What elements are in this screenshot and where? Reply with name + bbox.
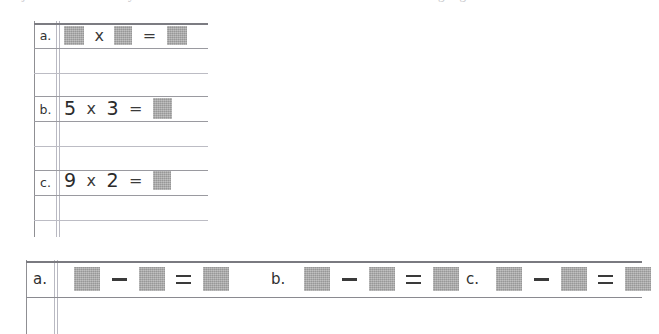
operand-c1: 9 [64,171,76,190]
operand-c2: 2 [106,171,118,190]
operator-equals-a: = [143,28,156,44]
operator-minus-b [342,278,357,281]
row-label-c: c. [35,175,56,190]
redacted-minuend-b[interactable] [304,267,330,291]
redacted-difference-b[interactable] [433,267,459,291]
equation-row-a: x = [64,26,187,45]
ruled-line [34,96,208,97]
equation-row-b: 5 x 3 = [64,98,172,119]
operand-b2: 3 [106,99,118,118]
ruled-line [34,220,208,221]
row-label-a: a. [35,28,56,43]
operator-equals-bottom-b [406,275,421,284]
operator-equals-b: = [129,101,142,117]
redacted-difference-c[interactable] [625,267,651,291]
block-left-border [34,21,35,237]
operator-equals-bottom-c [598,275,613,284]
ruled-line [34,146,208,147]
redacted-operand-a1[interactable] [64,26,84,45]
bottom-label-c: c. [466,270,479,288]
redacted-subtrahend-a[interactable] [139,267,165,291]
operator-times-a: x [94,28,103,44]
bottom-equation-c [496,267,651,291]
redacted-operand-a2[interactable] [114,26,132,45]
redacted-subtrahend-c[interactable] [561,267,587,291]
subtraction-worksheet-block: a. b. c. [26,258,642,334]
redacted-minuend-a[interactable] [74,267,100,291]
operator-equals-bottom-a [176,275,191,284]
redacted-answer-c[interactable] [153,171,171,190]
bottom-label-a: a. [33,270,47,288]
ruled-line [34,195,208,196]
ruled-line [34,23,208,25]
cropped-text-ghost: j y g g [0,0,659,3]
redacted-minuend-c[interactable] [496,267,522,291]
cropped-text-strip: j y g g [0,0,659,8]
ruled-line [34,48,208,49]
ruled-line [34,121,208,122]
operand-b1: 5 [64,99,76,118]
margin-rule-inner [56,21,57,237]
ruled-line [26,261,642,263]
operator-minus-c [534,278,549,281]
multiplication-worksheet-block: a. x = b. 5 x 3 = c. 9 x 2 = [34,20,208,238]
operator-equals-c: = [129,173,142,189]
margin-rule-outer [59,21,60,237]
redacted-answer-a[interactable] [167,26,187,45]
equation-row-c: 9 x 2 = [64,171,171,190]
bottom-equation-a [74,267,229,291]
bottom-equation-b [304,267,459,291]
ruled-line [34,73,208,74]
redacted-difference-a[interactable] [203,267,229,291]
operator-times-c: x [87,173,96,189]
redacted-subtrahend-b[interactable] [369,267,395,291]
redacted-answer-b[interactable] [153,98,172,119]
operator-times-b: x [87,101,96,117]
operator-minus-a [112,278,127,281]
ruled-line [26,297,642,298]
row-label-b: b. [35,102,56,117]
bottom-label-b: b. [271,270,285,288]
